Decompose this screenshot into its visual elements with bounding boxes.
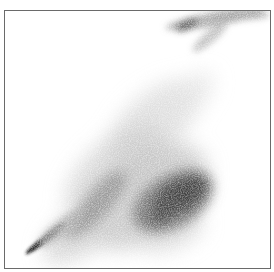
grain-overlay: [5, 11, 270, 268]
plot-area: [4, 10, 271, 269]
density-plot-figure: [0, 0, 274, 272]
density-scatter-svg: [5, 11, 270, 268]
